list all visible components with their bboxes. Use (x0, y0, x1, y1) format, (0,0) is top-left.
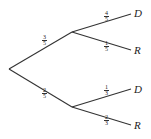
branch-lower-d (72, 89, 131, 107)
prob-den: 5 (105, 17, 108, 22)
tree-lines (0, 0, 151, 139)
prob-num: 1 (105, 41, 108, 46)
branch-upper-d (72, 14, 131, 32)
prob-lower-den: 5 (43, 94, 46, 99)
branch-upper (9, 32, 72, 69)
prob-den: 3 (105, 91, 108, 96)
prob-upper-num: 3 (43, 35, 46, 40)
leaf-upper-r: R (134, 45, 141, 56)
prob-den: 3 (105, 121, 108, 126)
leaf-lower-r: R (134, 120, 141, 131)
prob-upper: 3 5 (42, 35, 47, 46)
leaf-lower-d: D (134, 84, 142, 95)
probability-tree-diagram: 3 5 2 5 4 5 1 5 1 3 2 3 D R D R (0, 0, 151, 139)
branch-lower-r (72, 107, 131, 125)
prob-lower-num: 2 (43, 88, 46, 93)
leaf-upper-d: D (134, 8, 142, 19)
prob-upper-r: 1 5 (104, 41, 109, 52)
prob-num: 2 (105, 115, 108, 120)
branch-upper-r (72, 32, 131, 50)
prob-upper-d: 4 5 (104, 11, 109, 22)
branch-lower (9, 69, 72, 107)
prob-lower-r: 2 3 (104, 115, 109, 126)
prob-den: 5 (105, 47, 108, 52)
prob-num: 1 (105, 85, 108, 90)
prob-lower: 2 5 (42, 88, 47, 99)
prob-lower-d: 1 3 (104, 85, 109, 96)
prob-upper-den: 5 (43, 41, 46, 46)
prob-num: 4 (105, 11, 108, 16)
